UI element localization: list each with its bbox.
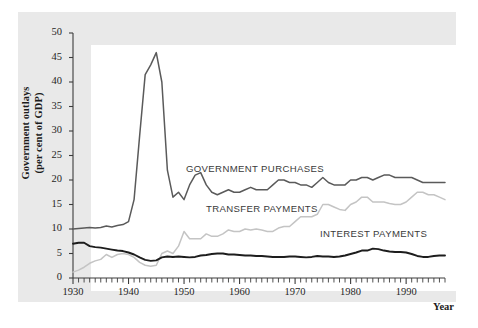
- x-tick-label: 1980: [331, 286, 371, 297]
- series-label-government-purchases: GOVERNMENT PURCHASES: [186, 163, 324, 174]
- axes: [69, 33, 445, 284]
- y-tick-label: 35: [36, 100, 62, 111]
- y-tick-label: 10: [36, 222, 62, 233]
- x-tick-label: 1960: [220, 286, 260, 297]
- series-line-interest-payments: [73, 243, 445, 261]
- x-tick-label: 1930: [53, 286, 93, 297]
- x-tick-label: 1990: [386, 286, 426, 297]
- y-tick-label: 45: [36, 51, 62, 62]
- x-tick-label: 1940: [109, 286, 149, 297]
- chart-figure: Government outlays (per cent of GDP) 051…: [0, 0, 478, 328]
- y-tick-label: 25: [36, 149, 62, 160]
- x-tick-label: 1950: [164, 286, 204, 297]
- series-label-transfer-payments: TRANSFER PAYMENTS: [206, 203, 318, 214]
- series-label-interest-payments: INTEREST PAYMENTS: [320, 228, 427, 239]
- x-tick-label: 1970: [275, 286, 315, 297]
- y-tick-label: 50: [36, 26, 62, 37]
- y-tick-label: 20: [36, 173, 62, 184]
- y-tick-label: 5: [36, 247, 62, 258]
- y-tick-label: 30: [36, 124, 62, 135]
- y-axis-title-line1: Government outlays: [20, 86, 31, 179]
- y-tick-label: 15: [36, 198, 62, 209]
- y-tick-label: 40: [36, 75, 62, 86]
- y-tick-label: 0: [36, 271, 62, 282]
- x-axis-title: Year: [433, 301, 454, 312]
